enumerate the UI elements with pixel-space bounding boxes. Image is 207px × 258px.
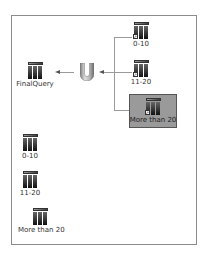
linked-table-icon: ↗ bbox=[146, 98, 161, 115]
input-node-11-20[interactable]: ↗ 11-20 bbox=[125, 60, 157, 86]
linked-table-icon: ↗ bbox=[134, 60, 149, 77]
linked-table-icon: ↗ bbox=[134, 22, 149, 39]
connector-vertical bbox=[114, 37, 115, 110]
node-label: 0-10 bbox=[14, 152, 46, 160]
table-icon bbox=[23, 134, 38, 151]
table-icon bbox=[23, 171, 38, 188]
node-label: 11-20 bbox=[14, 189, 46, 197]
table-icon bbox=[33, 208, 48, 225]
node-label: 0-10 bbox=[125, 40, 157, 48]
connector-more-than-20 bbox=[114, 110, 130, 111]
output-node-finalquery[interactable]: FinalQuery bbox=[16, 62, 54, 88]
link-arrow-icon: ↗ bbox=[133, 72, 138, 77]
standalone-node-0-10[interactable]: 0-10 bbox=[14, 134, 46, 160]
input-node-more-than-20[interactable]: ↗ More than 20 bbox=[129, 98, 177, 124]
node-label: FinalQuery bbox=[16, 80, 54, 88]
input-node-0-10[interactable]: ↗ 0-10 bbox=[125, 22, 157, 48]
union-icon[interactable] bbox=[80, 63, 94, 81]
standalone-node-11-20[interactable]: 11-20 bbox=[14, 171, 46, 197]
arrow-into-union-icon bbox=[99, 70, 104, 74]
table-icon bbox=[28, 62, 43, 79]
arrow-into-output-icon bbox=[55, 70, 60, 74]
link-arrow-icon: ↗ bbox=[133, 34, 138, 39]
node-label: 11-20 bbox=[125, 78, 157, 86]
node-label: More than 20 bbox=[18, 226, 62, 234]
standalone-node-more-than-20[interactable]: More than 20 bbox=[18, 208, 62, 234]
connector-union-to-output bbox=[59, 72, 74, 73]
node-label: More than 20 bbox=[129, 116, 177, 124]
link-arrow-icon: ↗ bbox=[145, 110, 150, 115]
